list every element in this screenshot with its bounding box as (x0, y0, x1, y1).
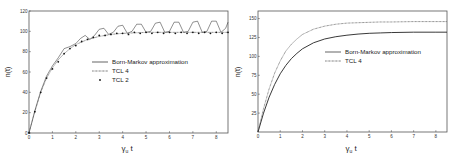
x-tick-label: 2 (301, 134, 304, 139)
x-tick-label: 1 (51, 135, 54, 140)
data-point (157, 31, 159, 33)
y-tick-label: 100 (20, 29, 28, 34)
data-point (151, 32, 153, 34)
data-point (227, 31, 229, 33)
data-point (75, 45, 77, 47)
data-point (69, 48, 71, 50)
legend-marker (99, 79, 101, 81)
data-point (133, 31, 135, 33)
data-point (215, 31, 217, 33)
data-point (163, 32, 165, 34)
y-tick-label: 80 (22, 49, 28, 54)
data-point (116, 32, 118, 34)
left-chart: 012345678020406080100120γu tn(t)Born-Mar… (4, 9, 229, 154)
data-point (204, 31, 206, 33)
figure: 012345678020406080100120γu tn(t)Born-Mar… (0, 0, 456, 158)
data-point (92, 37, 94, 39)
x-tick-label: 8 (435, 134, 438, 139)
data-point (139, 32, 141, 34)
x-axis-label: γu t (345, 144, 357, 154)
data-point (145, 31, 147, 33)
y-tick-label: 60 (22, 70, 28, 75)
y-tick-label: 25 (251, 111, 257, 116)
data-point (40, 91, 42, 93)
legend-label: TCL 4 (112, 67, 129, 74)
legend-label: TCL 2 (112, 76, 129, 83)
x-tick-label: 6 (390, 134, 393, 139)
data-point (34, 111, 36, 113)
series-line (258, 32, 447, 132)
x-tick-label: 4 (121, 135, 124, 140)
data-point (169, 31, 171, 33)
right-chart: 012345678255075100125150γu tn(t)Born-Mar… (234, 11, 447, 154)
y-axis-label: n(t) (4, 67, 12, 78)
data-point (57, 61, 59, 63)
y-tick-label: 100 (249, 54, 257, 59)
series-line (258, 22, 447, 132)
data-point (98, 35, 100, 37)
y-tick-label: 150 (249, 16, 257, 21)
data-point (81, 41, 83, 43)
data-point (186, 32, 188, 34)
legend: Born-Markov approximationTCL 4TCL 2 (92, 58, 189, 83)
x-tick-label: 3 (98, 135, 101, 140)
data-point (122, 32, 124, 34)
series-tcl-4 (258, 22, 447, 132)
x-tick-label: 7 (192, 135, 195, 140)
y-tick-label: 50 (251, 92, 257, 97)
x-tick-label: 2 (75, 135, 78, 140)
y-tick-label: 75 (251, 73, 257, 78)
y-tick-label: 125 (249, 35, 257, 40)
legend-label: Born-Markov approximation (112, 58, 189, 65)
data-point (110, 33, 112, 35)
legend: Born-Markov approximationTCL 4 (325, 48, 422, 64)
data-point (192, 31, 194, 33)
data-point (104, 35, 106, 37)
legend-label: TCL 4 (345, 57, 362, 64)
data-point (210, 32, 212, 34)
plot-frame (258, 11, 447, 132)
data-point (221, 32, 223, 34)
x-tick-label: 4 (346, 134, 349, 139)
data-point (174, 32, 176, 34)
x-tick-label: 8 (215, 135, 218, 140)
x-tick-label: 1 (279, 134, 282, 139)
series-born-markov-approximation (258, 32, 447, 132)
data-point (198, 32, 200, 34)
data-point (28, 132, 30, 134)
x-tick-label: 3 (323, 134, 326, 139)
data-point (46, 77, 48, 79)
data-point (52, 68, 54, 70)
x-tick-label: 0 (257, 134, 260, 139)
y-tick-label: 120 (20, 9, 28, 14)
x-tick-label: 5 (368, 134, 371, 139)
data-point (180, 31, 182, 33)
data-point (87, 39, 89, 41)
x-axis-label: γu t (121, 144, 133, 154)
x-tick-label: 0 (28, 135, 31, 140)
x-tick-label: 7 (412, 134, 415, 139)
y-axis-label: n(t) (234, 67, 242, 78)
legend-label: Born-Markov approximation (345, 48, 422, 55)
x-tick-label: 5 (145, 135, 148, 140)
x-tick-label: 6 (168, 135, 171, 140)
data-point (63, 53, 65, 55)
data-point (128, 33, 130, 35)
y-tick-label: 20 (22, 110, 28, 115)
y-tick-label: 40 (22, 90, 28, 95)
